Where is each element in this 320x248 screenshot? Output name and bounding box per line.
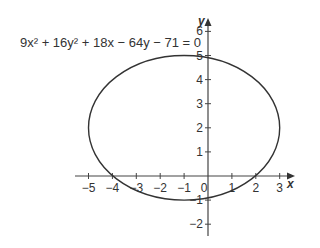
- x-tick-label: −4: [106, 181, 120, 195]
- y-tick-label: 3: [196, 97, 203, 111]
- y-tick-label: 4: [196, 73, 203, 87]
- x-tick-label: −2: [153, 181, 167, 195]
- x-axis-label: x: [286, 177, 295, 191]
- y-tick-label: 2: [196, 121, 203, 135]
- y-axis-label: y: [197, 14, 206, 28]
- y-tick-label: 1: [196, 145, 203, 159]
- x-tick-label: 3: [276, 181, 283, 195]
- x-tick-label: −5: [82, 181, 96, 195]
- x-tick-label: 1: [229, 181, 236, 195]
- y-axis-arrow-icon: [205, 18, 212, 26]
- equation-label: 9x² + 16y² + 18x − 64y − 71 = 0: [20, 35, 201, 50]
- y-tick-label: −2: [189, 217, 203, 231]
- x-tick-label: 2: [252, 181, 259, 195]
